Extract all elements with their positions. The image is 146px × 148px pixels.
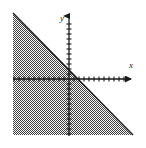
x-axis-label: x <box>128 60 133 70</box>
graph-canvas: x <box>0 0 146 148</box>
coordinate-plane-figure: x <box>0 0 146 148</box>
y-axis-label: y <box>59 13 64 23</box>
